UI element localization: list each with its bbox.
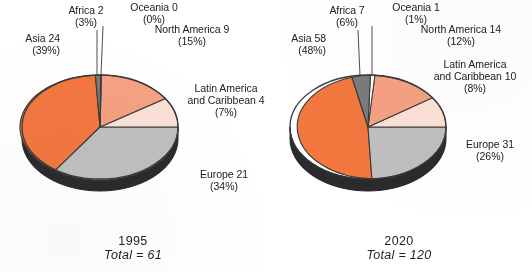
pie-graphic-1995: Asia 24 (39%) Africa 2 (3%) Oceania 0 (0… — [0, 0, 266, 230]
label-latin-america: Latin America and Caribbean 10 (8%) — [422, 58, 528, 95]
label-europe: Europe 21 (34%) — [186, 168, 262, 192]
label-europe: Europe 31 (26%) — [452, 138, 528, 162]
label-latin-america: Latin America and Caribbean 4 (7%) — [180, 82, 272, 119]
slice-europe[interactable] — [368, 127, 446, 179]
caption-2020: 2020 Total = 120 — [266, 234, 532, 263]
pie-chart-1995: Asia 24 (39%) Africa 2 (3%) Oceania 0 (0… — [0, 0, 266, 272]
label-africa: Africa 7 (6%) — [314, 4, 380, 28]
label-oceania: Oceania 0 (0%) — [118, 1, 190, 25]
label-north-america: North America 9 (15%) — [140, 23, 244, 47]
leader-line-africa — [358, 30, 360, 76]
pie-chart-2020: Asia 58 (48%) Africa 7 (6%) Oceania 1 (1… — [266, 0, 532, 272]
figure-canvas: Asia 24 (39%) Africa 2 (3%) Oceania 0 (0… — [0, 0, 532, 272]
label-asia: Asia 24 (39%) — [0, 32, 60, 56]
label-north-america: North America 14 (12%) — [406, 23, 516, 47]
label-africa: Africa 2 (3%) — [53, 4, 119, 28]
chart-total-2020: Total = 120 — [266, 248, 532, 263]
caption-1995: 1995 Total = 61 — [0, 234, 266, 263]
chart-year-1995: 1995 — [0, 234, 266, 248]
chart-year-2020: 2020 — [266, 234, 532, 248]
label-oceania: Oceania 1 (1%) — [380, 1, 452, 25]
label-asia: Asia 58 (48%) — [262, 32, 326, 56]
leader-line-oceania — [101, 26, 103, 75]
chart-total-1995: Total = 61 — [0, 248, 266, 263]
pie-graphic-2020: Asia 58 (48%) Africa 7 (6%) Oceania 1 (1… — [266, 0, 532, 230]
